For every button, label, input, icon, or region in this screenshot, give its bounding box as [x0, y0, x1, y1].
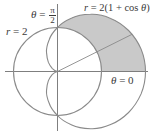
polar-diagram [0, 0, 156, 134]
r-value: = 2 [10, 25, 27, 37]
fraction-denominator: 2 [49, 16, 56, 25]
label-circle-r-2: r = 2 [6, 26, 28, 37]
shaded-region [58, 14, 146, 71]
equals: = [36, 8, 48, 20]
label-theta-half-pi: θ = π2 [31, 6, 56, 25]
cardioid-expression: = 2(1 + cos [88, 2, 141, 13]
label-cardioid: r = 2(1 + cos θ) [84, 3, 150, 14]
close-paren: ) [146, 2, 150, 13]
pi-over-two-fraction: π2 [49, 6, 56, 25]
label-theta-zero: θ = 0 [111, 75, 134, 86]
theta-zero-value: = 0 [116, 74, 133, 86]
